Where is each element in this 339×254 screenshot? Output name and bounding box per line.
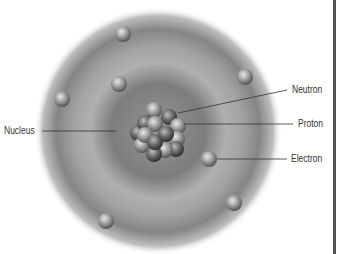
electron — [111, 76, 127, 92]
right-border — [333, 0, 336, 254]
neutron-label: Neutron — [292, 84, 322, 95]
nucleus-label: Nucleus — [4, 125, 35, 136]
electron — [98, 213, 114, 229]
atom-diagram — [0, 0, 339, 254]
electron — [237, 69, 253, 85]
electron — [201, 151, 217, 167]
electron-label: Electron — [291, 153, 322, 164]
electron — [115, 26, 131, 42]
electron — [226, 195, 242, 211]
electron — [54, 91, 70, 107]
proton-label: Proton — [298, 118, 323, 129]
